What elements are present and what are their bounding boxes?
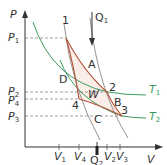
t1-label: T1 xyxy=(149,84,160,97)
v4-label: V4 xyxy=(74,151,86,164)
work-label: W xyxy=(88,89,99,100)
p4-label: P4 xyxy=(8,95,19,108)
process-d-label: D xyxy=(59,74,67,85)
q1-label: Q1 xyxy=(95,12,108,25)
point-3-label: 3 xyxy=(121,105,128,116)
point-4-label: 4 xyxy=(72,100,79,111)
p-axis-label: P xyxy=(10,9,17,20)
p3-label: P3 xyxy=(8,111,19,124)
process-b-label: B xyxy=(114,97,122,108)
q2-label: Q2 xyxy=(90,155,103,165)
v1-label: V1 xyxy=(54,151,66,164)
process-a-label: A xyxy=(88,59,96,70)
v-axis-label: V xyxy=(147,154,155,165)
process-c-label: C xyxy=(94,114,102,125)
p1-label: P1 xyxy=(8,32,19,45)
carnot-diagram: P V P1 P2 P4 P3 V1 V4 V2 V3 1 2 3 4 A B … xyxy=(0,0,167,165)
v3-label: V3 xyxy=(116,151,128,164)
diagram-canvas xyxy=(0,0,167,165)
point-1-label: 1 xyxy=(62,15,69,26)
p-axis-arrow-icon xyxy=(22,10,28,18)
v2-label: V2 xyxy=(104,151,116,164)
point-2-label: 2 xyxy=(109,82,116,93)
v-axis-arrow-icon xyxy=(155,144,163,150)
t2-label: T2 xyxy=(149,111,160,124)
